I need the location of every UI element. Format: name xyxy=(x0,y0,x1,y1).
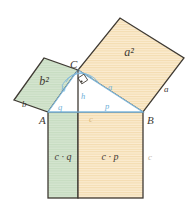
label-side-c-outer: c xyxy=(148,152,152,162)
area-label-a-squared: a² xyxy=(124,45,134,59)
vertex-label-B: B xyxy=(147,114,154,126)
label-side-a-inner: a xyxy=(108,82,112,92)
geometry-canvas: A B C b² a² c · q c · p b a b a h q p xyxy=(0,0,187,215)
label-side-a-outer: a xyxy=(164,84,169,94)
label-side-c-inner: c xyxy=(89,114,93,124)
label-segment-p: p xyxy=(104,101,109,111)
vertex-label-C: C xyxy=(70,58,78,70)
pythagoras-figure: A B C b² a² c · q c · p b a b a h q p xyxy=(0,0,187,215)
label-side-b-outer: b xyxy=(22,99,27,109)
vertex-label-A: A xyxy=(38,114,46,126)
area-label-c-times-q: c · q xyxy=(55,151,72,162)
label-side-b-inner: b xyxy=(61,84,65,94)
area-label-b-squared: b² xyxy=(39,74,49,88)
label-altitude-h: h xyxy=(81,91,85,101)
area-label-c-times-p: c · p xyxy=(102,151,119,162)
